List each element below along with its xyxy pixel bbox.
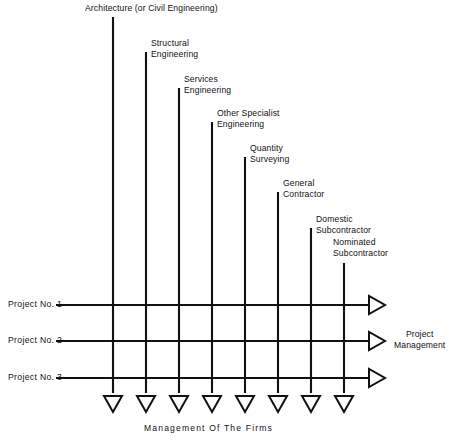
column-label-0: Architecture (or Civil Engineering) [85,3,218,14]
column-arrowhead-0 [104,396,122,412]
column-label-1: Structural Engineering [151,38,198,59]
column-label-4: Quantity Surveying [250,143,289,164]
column-label-3: Other Specialist Engineering [217,108,280,129]
right-arrowheads-group [369,296,385,387]
column-label-2: Services Engineering [184,74,231,95]
row-label-2: Project No. 3 [8,372,62,383]
down-arrowheads-group [104,396,353,412]
column-arrowhead-5 [269,396,287,412]
column-label-6: Domestic Subcontractor [316,214,371,235]
column-arrowhead-3 [203,396,221,412]
row-label-0: Project No. 1 [8,299,62,310]
column-label-7: Nominated Subcontractor [333,237,388,258]
diagram-canvas [0,0,456,444]
footer-label: Management Of The Firms [144,423,273,434]
matrix-organisation-diagram: Architecture (or Civil Engineering)Struc… [0,0,456,444]
project-management-label: Project Management [394,329,445,350]
column-arrowhead-4 [236,396,254,412]
row-arrowhead-1 [369,332,385,350]
column-arrowhead-7 [335,396,353,412]
column-arrowhead-6 [302,396,320,412]
row-arrowhead-0 [369,296,385,314]
row-arrowhead-2 [369,369,385,387]
row-label-1: Project No. 2 [8,335,62,346]
column-arrowhead-1 [137,396,155,412]
column-label-5: General Contractor [283,178,324,199]
column-arrowhead-2 [170,396,188,412]
